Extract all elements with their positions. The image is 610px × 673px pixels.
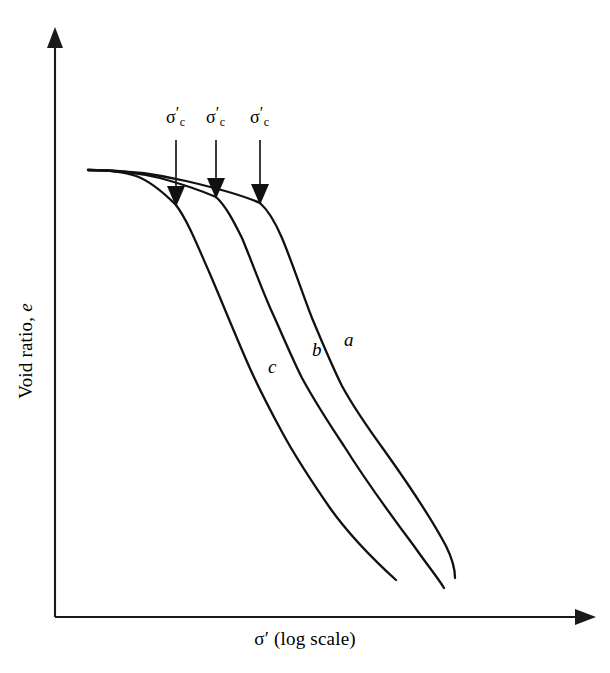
sigma-glyph-2: σ [206,107,216,127]
sigma-c-arrow-1 [167,140,185,207]
sigma-c-label-3: σ′c [250,105,269,128]
x-axis-label-text: σ′ (log scale) [254,628,356,649]
y-axis-arrowhead [47,27,63,48]
y-axis-label-text: Void ratio, [15,312,36,399]
subscript-c-2: c [219,115,225,129]
sigma-c-label-2: σ′c [206,105,225,128]
y-axis-label-symbol: e [15,303,36,312]
curve-c [88,170,396,580]
axes-group [47,27,596,625]
curves-group [88,170,455,588]
x-axis-label: σ′ (log scale) [200,628,410,650]
curve-label-c: c [268,357,276,376]
curve-label-b: b [312,340,322,359]
sigma-glyph-3: σ [250,107,260,127]
plot-canvas [0,0,610,673]
sigma-c-label-1: σ′c [166,105,185,128]
preconsolidation-annotations-group [167,140,269,207]
sigma-c-arrow-3 [251,140,269,205]
sigma-glyph-1: σ [166,107,176,127]
subscript-c-3: c [263,115,269,129]
consolidation-curve-figure: σ′c σ′c σ′c a b c Void ratio, e σ′ (log … [0,0,610,673]
curve-b [88,170,444,588]
subscript-c-1: c [179,115,185,129]
x-axis-arrowhead [575,609,596,625]
curve-label-a: a [344,330,354,349]
y-axis-label: Void ratio, e [15,251,37,451]
